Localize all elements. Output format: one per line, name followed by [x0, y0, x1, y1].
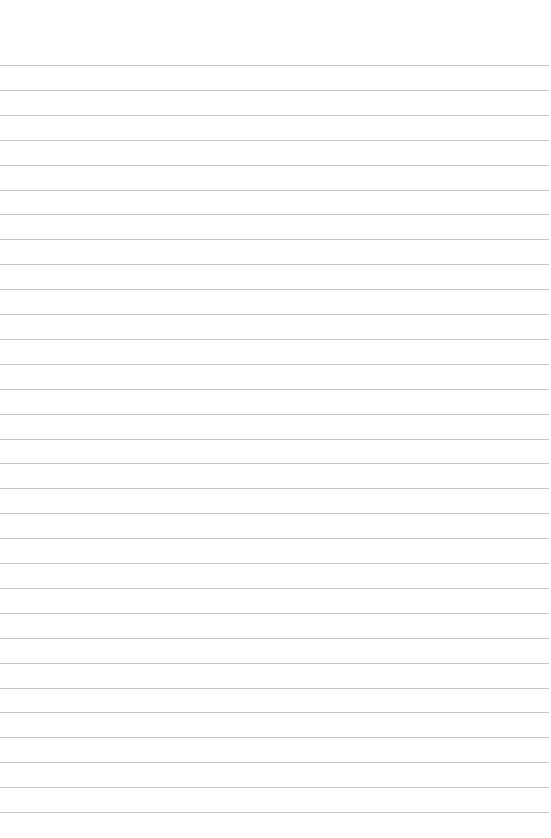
ruled-line: [0, 688, 549, 689]
lined-paper-page: [0, 0, 551, 838]
ruled-line: [0, 190, 549, 191]
ruled-line: [0, 663, 549, 664]
ruled-line: [0, 214, 549, 215]
ruled-line: [0, 638, 549, 639]
ruled-line: [0, 538, 549, 539]
ruled-line: [0, 762, 549, 763]
ruled-line: [0, 787, 549, 788]
ruled-line: [0, 463, 549, 464]
ruled-line: [0, 364, 549, 365]
ruled-line: [0, 563, 549, 564]
ruled-line: [0, 389, 549, 390]
ruled-line: [0, 812, 549, 813]
ruled-line: [0, 712, 549, 713]
ruled-line: [0, 613, 549, 614]
ruled-line: [0, 414, 549, 415]
ruled-line: [0, 513, 549, 514]
ruled-line: [0, 314, 549, 315]
ruled-line: [0, 90, 549, 91]
ruled-line: [0, 588, 549, 589]
ruled-line: [0, 289, 549, 290]
ruled-line: [0, 239, 549, 240]
ruled-line: [0, 165, 549, 166]
ruled-line: [0, 488, 549, 489]
ruled-line: [0, 339, 549, 340]
ruled-line: [0, 115, 549, 116]
ruled-line: [0, 439, 549, 440]
ruled-line: [0, 140, 549, 141]
ruled-line: [0, 65, 549, 66]
ruled-line: [0, 737, 549, 738]
ruled-line: [0, 264, 549, 265]
